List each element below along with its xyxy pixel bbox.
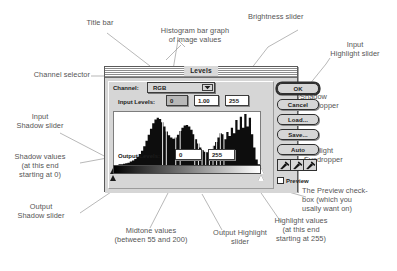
dialog-title: Levels <box>184 66 218 76</box>
load-button[interactable]: Load... <box>277 114 319 125</box>
eyedropper-group <box>277 159 319 171</box>
annotation-brightness-slider: Brightness slider <box>248 12 338 21</box>
cancel-button[interactable]: Cancel <box>277 99 319 110</box>
output-gradient-bar <box>113 165 261 174</box>
annotation-shadow-values: Shadow values (at this end starting at 0… <box>2 152 78 180</box>
output-levels-label: Output Levels: <box>118 152 160 160</box>
preview-label: Preview <box>286 178 309 184</box>
annotation-preview-checkbox: The Preview check- box (which you usally… <box>302 186 396 214</box>
eyedropper-shadow[interactable] <box>277 159 291 171</box>
dialog-button-column: OK Cancel Load... Save... Auto <box>277 83 323 184</box>
annotation-channel-selector: Channel selector <box>4 70 90 79</box>
eyedropper-midtone[interactable] <box>290 159 304 171</box>
channel-selected-value: RGB <box>153 84 166 93</box>
auto-button[interactable]: Auto <box>277 144 319 155</box>
annotation-input-shadow-slider: Input Shadow slider <box>4 112 76 130</box>
input-midtone-value: 1.00 <box>198 97 210 106</box>
dialog-title-bar[interactable]: Levels <box>105 67 297 78</box>
preview-row[interactable]: Preview <box>277 177 323 184</box>
channel-selector[interactable]: RGB <box>147 82 215 93</box>
input-highlight-value: 255 <box>229 97 239 106</box>
diagram-canvas: Title bar Histogram bar graph of image v… <box>0 0 397 271</box>
levels-dialog: Levels Channel: RGB Input Levels: 0 <box>104 66 298 192</box>
output-shadow-value: 0 <box>179 151 182 160</box>
input-midtone-field[interactable]: 1.00 <box>194 95 219 106</box>
input-shadow-field[interactable]: 0 <box>166 95 188 106</box>
annotation-midtone-values: Midtone values (between 55 and 200) <box>96 226 206 244</box>
annotation-input-highlight-slider: Input Highlight slider <box>318 40 392 58</box>
eyedropper-icon <box>279 161 290 170</box>
eyedropper-highlight[interactable] <box>303 159 317 171</box>
output-highlight-slider-handle[interactable] <box>258 175 264 181</box>
output-shadow-slider-handle[interactable] <box>110 175 116 181</box>
input-levels-label: Input Levels: <box>118 98 155 106</box>
annotation-histogram: Histogram bar graph of image values <box>145 26 245 44</box>
chevron-down-icon[interactable] <box>202 84 213 91</box>
channel-label: Channel: <box>113 84 139 92</box>
annotation-title-bar: Title bar <box>60 18 140 27</box>
eyedropper-icon <box>292 161 303 170</box>
output-slider-track[interactable] <box>113 174 261 182</box>
eyedropper-icon <box>305 161 316 170</box>
dialog-body: Channel: RGB Input Levels: 0 1.00 <box>105 78 297 193</box>
channel-row: Channel: RGB <box>113 84 139 92</box>
ok-button[interactable]: OK <box>277 83 319 94</box>
output-highlight-value: 255 <box>212 151 222 160</box>
save-button[interactable]: Save... <box>277 129 319 140</box>
annotation-highlight-values: Highlight values (at this end starting a… <box>258 216 344 244</box>
annotation-output-shadow-slider: Output Shadow slider <box>4 202 78 220</box>
input-highlight-field[interactable]: 255 <box>225 95 249 106</box>
output-highlight-field[interactable]: 255 <box>208 149 235 160</box>
output-shadow-field[interactable]: 0 <box>175 149 202 160</box>
input-shadow-value: 0 <box>170 97 173 106</box>
preview-checkbox[interactable] <box>277 177 284 184</box>
